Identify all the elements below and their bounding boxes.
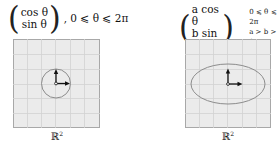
right-condition-theta: 0 ⩽ θ ⩽ 2π	[249, 7, 280, 27]
left-paren-close: )	[49, 2, 61, 34]
left-paren-open: (	[8, 2, 20, 34]
left-condition: , 0 ⩽ θ ⩽ 2π	[64, 12, 129, 24]
right-vector-top: a cos θ	[192, 3, 221, 27]
left-vector: cos θ sin θ	[20, 6, 49, 30]
right-space-label: ℝ2	[213, 130, 243, 142]
left-vector-top: cos θ	[21, 6, 48, 18]
left-formula: ( cos θ sin θ ) , 0 ⩽ θ ⩽ 2π	[8, 3, 128, 33]
left-vector-bottom: sin θ	[22, 18, 47, 30]
left-space-label: ℝ2	[42, 130, 72, 142]
left-plane-diagram	[13, 39, 100, 128]
right-origin-point	[227, 83, 230, 86]
right-plane-diagram	[185, 39, 271, 128]
left-origin-point	[55, 82, 58, 85]
